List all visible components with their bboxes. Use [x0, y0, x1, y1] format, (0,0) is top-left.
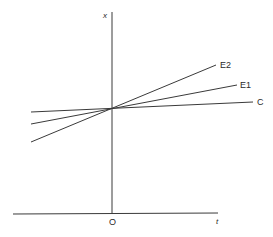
line-c: [31, 102, 253, 112]
diagram-canvas: x t O E2 E1 C: [0, 0, 273, 237]
horizontal-axis-label: t: [216, 217, 219, 226]
origin-label: O: [109, 217, 116, 227]
horizontal-axis: [13, 213, 218, 214]
line-e2-label: E2: [220, 60, 231, 70]
line-e2: [31, 65, 216, 142]
vertical-axis-label: x: [102, 11, 108, 20]
line-e1-label: E1: [240, 80, 251, 90]
line-c-label: C: [257, 97, 264, 107]
